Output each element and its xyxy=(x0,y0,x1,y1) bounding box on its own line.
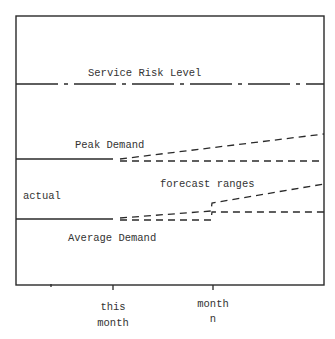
demand-forecast-diagram: Service Risk Level Peak Demand actual fo… xyxy=(0,0,335,339)
service-risk-label: Service Risk Level xyxy=(88,67,201,79)
peak-demand-label: Peak Demand xyxy=(75,139,144,151)
x-label-month: month xyxy=(197,298,229,310)
actual-label: actual xyxy=(23,190,61,202)
peak-forecast-upper xyxy=(120,134,324,159)
x-label-this-month: month xyxy=(97,317,129,329)
x-label-n: n xyxy=(210,313,216,325)
average-demand-label: Average Demand xyxy=(68,232,156,244)
forecast-ranges-label: forecast ranges xyxy=(160,178,255,190)
x-label-this: this xyxy=(100,301,125,313)
chart-frame xyxy=(16,16,324,285)
